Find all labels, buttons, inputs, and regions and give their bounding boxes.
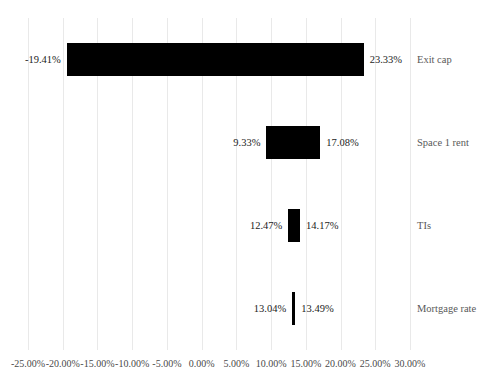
bar-value-label-low: -19.41% (25, 55, 61, 66)
gridline (28, 18, 29, 350)
x-tick-label: -25.00% (11, 359, 45, 369)
gridline (410, 18, 411, 350)
gridline (63, 18, 64, 350)
category-label: TIs (417, 221, 431, 232)
plot-area (28, 18, 410, 350)
category-label: Mortgage rate (417, 304, 476, 315)
x-tick-label: 20.00% (325, 359, 356, 369)
bar-value-label-high: 13.49% (301, 304, 333, 315)
bar-value-label-low: 9.33% (233, 138, 260, 149)
x-tick-label: 25.00% (360, 359, 391, 369)
x-tick-label: -5.00% (152, 359, 181, 369)
category-label: Space 1 rent (417, 138, 469, 149)
x-tick-label: 5.00% (223, 359, 249, 369)
x-tick-label: -20.00% (46, 359, 80, 369)
x-tick-label: -15.00% (80, 359, 114, 369)
gridline (375, 18, 376, 350)
bar-value-label-high: 14.17% (306, 221, 338, 232)
bar-value-label-low: 13.04% (254, 304, 286, 315)
x-tick-label: 30.00% (395, 359, 426, 369)
tornado-bar (67, 43, 364, 76)
bar-value-label-high: 17.08% (326, 138, 358, 149)
tornado-bar (292, 292, 295, 325)
x-tick-label: 0.00% (189, 359, 215, 369)
bar-value-label-high: 23.33% (370, 55, 402, 66)
x-tick-label: 15.00% (290, 359, 321, 369)
tornado-bar (266, 126, 320, 159)
category-label: Exit cap (417, 55, 452, 66)
x-tick-label: -10.00% (115, 359, 149, 369)
x-tick-label: 10.00% (256, 359, 287, 369)
tornado-chart: -19.41%23.33%9.33%17.08%12.47%14.17%13.0… (0, 0, 487, 391)
bar-value-label-low: 12.47% (250, 221, 282, 232)
tornado-bar (288, 209, 300, 242)
